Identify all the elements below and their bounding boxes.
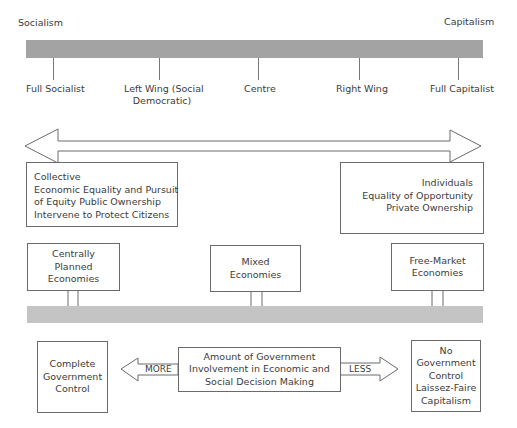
- centrally-planned-box: Centrally Planned Economies: [27, 243, 120, 291]
- double-headed-arrow-icon: [25, 129, 481, 163]
- collective-line-1: Collective: [34, 171, 177, 184]
- free-market-line-2: Economies: [412, 267, 464, 280]
- more-label: MORE: [145, 363, 172, 375]
- individual-line-3: Private Ownership: [341, 202, 473, 215]
- individual-line-2: Equality of Opportunity: [341, 190, 473, 203]
- no-gov-line-4: Laissez-Faire: [416, 382, 477, 395]
- no-gov-line-5: Capitalism: [421, 395, 471, 408]
- complete-government-control-box: Complete Government Control: [37, 341, 108, 413]
- individual-values-box: Individuals Equality of Opportunity Priv…: [340, 162, 484, 234]
- collective-line-3: of Equity Public Ownership: [34, 196, 177, 209]
- centrally-planned-line-3: Economies: [48, 273, 100, 286]
- less-label: LESS: [349, 363, 371, 375]
- mixed-line-2: Economies: [230, 269, 282, 282]
- mixed-economies-box: Mixed Economies: [210, 245, 301, 292]
- no-gov-line-3: Control: [429, 370, 463, 383]
- individual-line-1: Individuals: [341, 177, 473, 190]
- collective-line-2: Economic Equality and Pursuit: [34, 184, 177, 197]
- free-market-box: Free-Market Economies: [391, 243, 484, 291]
- mixed-line-1: Mixed: [241, 256, 269, 269]
- no-gov-line-1: No: [440, 345, 453, 358]
- collective-values-box: Collective Economic Equality and Pursuit…: [26, 162, 178, 227]
- complete-gov-line-1: Complete: [50, 358, 96, 371]
- free-market-line-1: Free-Market: [409, 255, 465, 268]
- complete-gov-line-2: Government: [43, 371, 102, 384]
- economic-system-bar: [27, 306, 483, 323]
- centrally-planned-line-2: Planned: [54, 261, 92, 274]
- involvement-line-1: Amount of Government: [204, 351, 316, 364]
- complete-gov-line-3: Control: [55, 383, 89, 396]
- government-involvement-box: Amount of Government Involvement in Econ…: [178, 347, 341, 392]
- involvement-line-3: Social Decision Making: [205, 376, 314, 389]
- no-gov-line-2: Government: [416, 357, 475, 370]
- collective-line-4: Intervene to Protect Citizens: [34, 209, 177, 222]
- centrally-planned-line-1: Centrally: [52, 248, 95, 261]
- involvement-line-2: Involvement in Economic and: [189, 363, 330, 376]
- no-government-control-box: No Government Control Laissez-Faire Capi…: [411, 340, 481, 412]
